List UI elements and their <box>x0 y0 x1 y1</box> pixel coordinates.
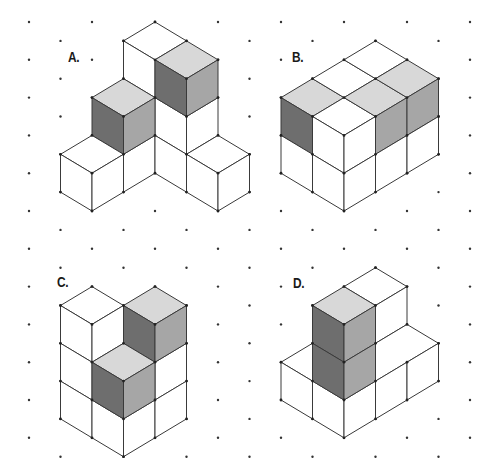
vertex-dot <box>185 418 188 421</box>
grid-dot <box>248 342 250 344</box>
vertex-dot <box>437 342 440 345</box>
vertex-dot <box>406 172 409 175</box>
grid-dot <box>185 267 187 269</box>
grid-dot <box>28 323 30 325</box>
vertex-dot <box>437 115 440 118</box>
grid-dot <box>469 59 471 61</box>
grid-dot <box>217 361 219 363</box>
grid-dot <box>248 115 250 117</box>
vertex-dot <box>59 191 62 194</box>
vertex-dot <box>154 323 157 326</box>
figure-a-cube-structure <box>61 22 250 211</box>
vertex-dot <box>406 134 409 137</box>
vertex-dot <box>374 266 377 269</box>
vertex-dot <box>122 77 125 80</box>
vertex-dot <box>59 380 62 383</box>
vertex-dot <box>343 134 346 137</box>
grid-dot <box>469 21 471 23</box>
grid-dot <box>280 59 282 61</box>
grid-dot <box>248 78 250 80</box>
grid-dot <box>437 229 439 231</box>
vertex-dot <box>154 134 157 137</box>
grid-dot <box>311 40 313 42</box>
vertex-dot <box>91 96 94 99</box>
vertex-dot <box>91 134 94 137</box>
grid-dot <box>406 210 408 212</box>
figure-b-label: B. <box>292 50 303 64</box>
vertex-dot <box>248 153 251 156</box>
vertex-dot <box>122 455 125 458</box>
vertex-dot <box>248 191 251 194</box>
vertex-dot <box>91 361 94 364</box>
vertex-dot <box>437 153 440 156</box>
vertex-dot <box>154 436 157 439</box>
isometric-dot-grid-canvas <box>0 0 478 469</box>
vertex-dot <box>311 77 314 80</box>
vertex-dot <box>185 380 188 383</box>
figure-d-cube-structure <box>281 268 439 438</box>
grid-dot <box>280 285 282 287</box>
vertex-dot <box>343 285 346 288</box>
vertex-dot <box>280 399 283 402</box>
vertex-dot <box>154 58 157 61</box>
grid-dot <box>28 248 30 250</box>
vertex-dot <box>343 96 346 99</box>
vertex-dot <box>217 58 220 61</box>
vertex-dot <box>185 304 188 307</box>
grid-dot <box>217 248 219 250</box>
grid-dot <box>469 248 471 250</box>
grid-dot <box>91 248 93 250</box>
grid-dot <box>469 172 471 174</box>
grid-dot <box>59 267 61 269</box>
grid-dot <box>469 361 471 363</box>
vertex-dot <box>217 210 220 213</box>
grid-dot <box>217 323 219 325</box>
vertex-dot <box>374 418 377 421</box>
vertex-dot <box>59 418 62 421</box>
vertex-dot <box>343 399 346 402</box>
vertex-dot <box>343 58 346 61</box>
vertex-dot <box>406 323 409 326</box>
grid-dot <box>437 418 439 420</box>
vertex-dot <box>91 399 94 402</box>
vertex-dot <box>311 418 314 421</box>
grid-dot <box>28 21 30 23</box>
vertex-dot <box>185 191 188 194</box>
grid-dot <box>248 267 250 269</box>
vertex-dot <box>185 153 188 156</box>
grid-dot <box>28 437 30 439</box>
grid-dot <box>248 304 250 306</box>
grid-dot <box>469 134 471 136</box>
vertex-dot <box>122 418 125 421</box>
vertex-dot <box>154 399 157 402</box>
grid-dot <box>374 456 376 458</box>
vertex-dot <box>91 172 94 175</box>
vertex-dot <box>406 361 409 364</box>
figure-c-cube-structure <box>61 287 187 457</box>
grid-dot <box>28 96 30 98</box>
vertex-dot <box>185 40 188 43</box>
vertex-dot <box>406 285 409 288</box>
grid-dot <box>280 437 282 439</box>
vertex-dot <box>280 172 283 175</box>
vertex-dot <box>217 134 220 137</box>
grid-dot <box>280 248 282 250</box>
grid-dot <box>469 323 471 325</box>
grid-dot <box>28 361 30 363</box>
grid-dot <box>248 456 250 458</box>
grid-dot <box>311 229 313 231</box>
grid-dot <box>469 210 471 212</box>
grid-dot <box>122 267 124 269</box>
grid-dot <box>437 304 439 306</box>
grid-dot <box>469 285 471 287</box>
grid-dot <box>406 248 408 250</box>
grid-dot <box>122 229 124 231</box>
vertex-dot <box>406 58 409 61</box>
vertex-dot <box>154 21 157 24</box>
grid-dot <box>469 399 471 401</box>
vertex-dot <box>343 172 346 175</box>
vertex-dot <box>59 304 62 307</box>
grid-dot <box>280 323 282 325</box>
vertex-dot <box>59 342 62 345</box>
vertex-dot <box>122 115 125 118</box>
